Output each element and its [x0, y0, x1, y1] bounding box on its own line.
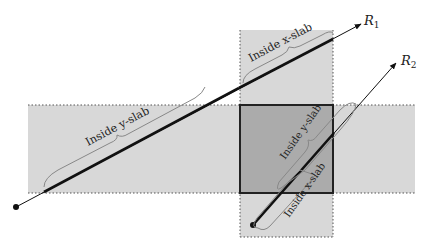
r1-label: R1	[363, 13, 380, 30]
ray-slab-diagram: R1 Inside y-slab Inside x-slab R2 Inside…	[0, 0, 430, 250]
r2-label: R2	[400, 53, 417, 70]
y-slab-region	[28, 105, 415, 193]
r1-origin-point	[13, 204, 19, 210]
